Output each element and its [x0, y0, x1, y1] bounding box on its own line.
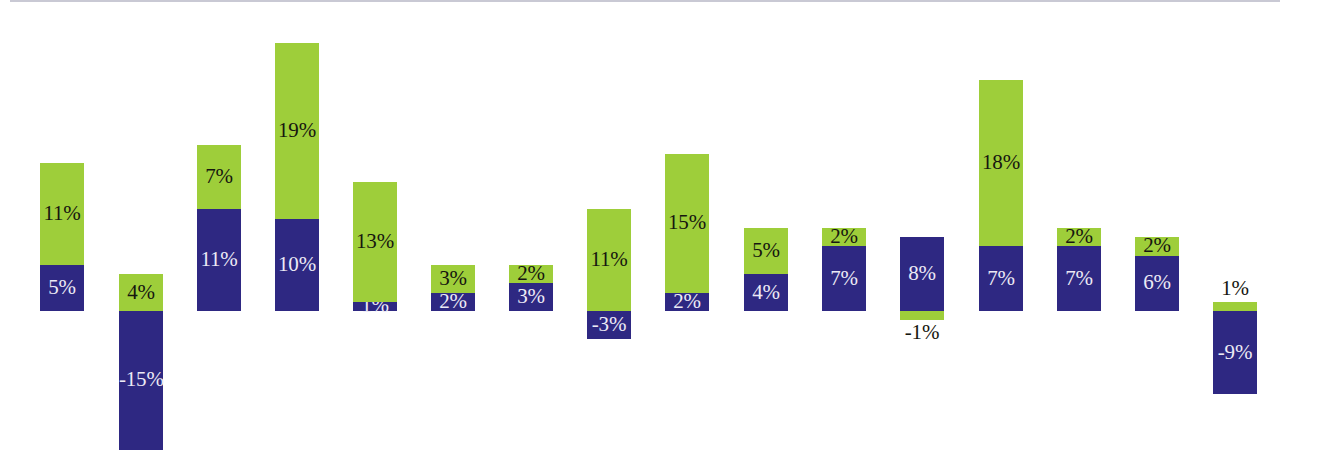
- bar-segment-label: 1%: [1213, 278, 1257, 299]
- bar-segment-green[interactable]: [900, 311, 944, 320]
- bar-segment-green[interactable]: [353, 182, 397, 302]
- bar-segment-green[interactable]: [744, 228, 788, 274]
- bar-segment-green[interactable]: [119, 274, 163, 311]
- bar-group[interactable]: 3%2%: [509, 0, 553, 472]
- bar-segment-green[interactable]: [1057, 228, 1101, 247]
- bar-segment-label: -1%: [900, 322, 944, 343]
- stacked-bar-chart: 5%11%4%-15%11%7%10%19%1%13%2%3%3%2%11%-3…: [0, 0, 1340, 472]
- bar-segment-green[interactable]: [1213, 302, 1257, 311]
- bar-group[interactable]: 2%15%: [665, 0, 709, 472]
- bar-segment-green[interactable]: [1135, 237, 1179, 256]
- bar-segment-purple[interactable]: [665, 293, 709, 312]
- bar-segment-green[interactable]: [275, 43, 319, 219]
- bar-segment-purple[interactable]: [40, 265, 84, 311]
- bar-group[interactable]: 11%-3%: [587, 0, 631, 472]
- bar-segment-purple[interactable]: [119, 311, 163, 450]
- bar-segment-purple[interactable]: [979, 246, 1023, 311]
- bar-segment-green[interactable]: [979, 80, 1023, 247]
- bar-segment-purple[interactable]: [1135, 256, 1179, 312]
- bar-segment-purple[interactable]: [197, 209, 241, 311]
- bar-group[interactable]: 4%5%: [744, 0, 788, 472]
- bar-group[interactable]: 1%-9%: [1213, 0, 1257, 472]
- bar-segment-purple[interactable]: [900, 237, 944, 311]
- bar-group[interactable]: 2%3%: [431, 0, 475, 472]
- bar-group[interactable]: 1%13%: [353, 0, 397, 472]
- bar-segment-green[interactable]: [665, 154, 709, 293]
- bar-segment-green[interactable]: [197, 145, 241, 210]
- bar-segment-purple[interactable]: [509, 283, 553, 311]
- bar-group[interactable]: 10%19%: [275, 0, 319, 472]
- bar-segment-green[interactable]: [509, 265, 553, 284]
- bar-group[interactable]: 5%11%: [40, 0, 84, 472]
- bar-segment-green[interactable]: [431, 265, 475, 293]
- bar-segment-green[interactable]: [822, 228, 866, 247]
- bar-group[interactable]: 8%-1%: [900, 0, 944, 472]
- bar-group[interactable]: 7%2%: [822, 0, 866, 472]
- bar-segment-purple[interactable]: [275, 219, 319, 312]
- bar-segment-purple[interactable]: [1213, 311, 1257, 394]
- bar-group[interactable]: 7%2%: [1057, 0, 1101, 472]
- bar-segment-purple[interactable]: [353, 302, 397, 311]
- bar-group[interactable]: 7%18%: [979, 0, 1023, 472]
- bar-segment-purple[interactable]: [587, 311, 631, 339]
- bar-segment-purple[interactable]: [1057, 246, 1101, 311]
- bar-segment-purple[interactable]: [431, 293, 475, 312]
- bar-segment-purple[interactable]: [744, 274, 788, 311]
- bar-group[interactable]: 4%-15%: [119, 0, 163, 472]
- bar-group[interactable]: 11%7%: [197, 0, 241, 472]
- bar-segment-green[interactable]: [587, 209, 631, 311]
- bar-segment-green[interactable]: [40, 163, 84, 265]
- bar-group[interactable]: 6%2%: [1135, 0, 1179, 472]
- bar-segment-purple[interactable]: [822, 246, 866, 311]
